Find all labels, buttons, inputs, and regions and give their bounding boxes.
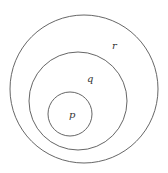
set-q-circle [29, 52, 127, 150]
venn-diagram: r q p [0, 0, 168, 173]
set-q-label: q [87, 73, 93, 84]
set-p-label: p [69, 109, 76, 120]
set-r-label: r [112, 40, 118, 51]
set-r-circle [10, 15, 158, 163]
